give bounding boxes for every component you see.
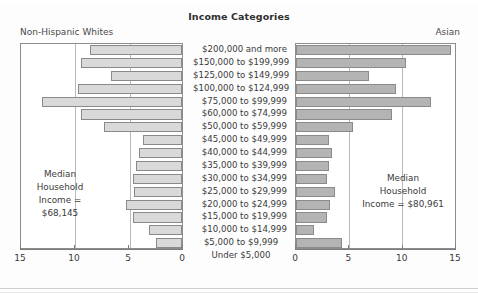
axis-tick-label: 10 — [396, 253, 407, 263]
bar[interactable] — [296, 122, 353, 132]
left-x-axis: 151050 — [20, 249, 183, 271]
bar-row — [296, 224, 455, 237]
right-bar-rows — [296, 44, 455, 248]
category-label: $15,000 to $19,999 — [193, 210, 289, 223]
axis-tick — [295, 245, 296, 250]
axis-tick — [74, 245, 75, 250]
footer-rule — [0, 288, 478, 289]
bar[interactable] — [296, 109, 392, 119]
bar[interactable] — [143, 135, 182, 145]
top-margin — [0, 0, 478, 4]
bar-row — [21, 70, 182, 83]
axis-tick-label: 15 — [449, 253, 460, 263]
axis-tick-label: 0 — [179, 253, 185, 263]
left-median-line-3: Income = — [24, 194, 96, 207]
bar[interactable] — [156, 238, 182, 248]
bar-row — [296, 147, 455, 160]
bar-row — [296, 108, 455, 121]
right-median-line-2: Household — [352, 185, 454, 198]
category-label: $25,000 to $29,999 — [193, 185, 289, 198]
bar[interactable] — [296, 84, 396, 94]
axis-tick — [348, 245, 349, 250]
chart-title: Income Categories — [0, 11, 478, 22]
axis-tick-label: 0 — [292, 253, 298, 263]
category-label: Under $5,000 — [193, 249, 289, 262]
left-series-label: Non-Hispanic Whites — [20, 27, 113, 37]
bar-row — [21, 108, 182, 121]
bar-row — [21, 57, 182, 70]
category-label: $30,000 to $34,999 — [193, 172, 289, 185]
axis-tick-label: 5 — [125, 253, 131, 263]
left-median-annotation: Median Household Income = $68,145 — [24, 168, 96, 220]
category-label: $45,000 to $49,999 — [193, 133, 289, 146]
bar[interactable] — [149, 225, 182, 235]
right-x-axis: 051015 — [295, 249, 456, 271]
bar[interactable] — [42, 97, 182, 107]
bar[interactable] — [134, 187, 182, 197]
left-axis-line — [20, 249, 183, 250]
axis-tick — [128, 245, 129, 250]
bar-row — [21, 134, 182, 147]
category-label: $100,000 to $124,999 — [193, 82, 289, 95]
bar-row — [21, 44, 182, 57]
right-median-value: Income = $80,961 — [352, 198, 454, 211]
bar-row — [21, 224, 182, 237]
category-label: $75,000 to $99,999 — [193, 95, 289, 108]
bar-row — [296, 70, 455, 83]
chart-figure: Income Categories Non-Hispanic Whites As… — [0, 0, 478, 293]
axis-tick — [402, 245, 403, 250]
axis-tick-label: 10 — [68, 253, 79, 263]
axis-tick-label: 15 — [14, 253, 25, 263]
category-label: $40,000 to $44,999 — [193, 146, 289, 159]
bar-row — [296, 160, 455, 173]
bar-row — [296, 44, 455, 57]
bar[interactable] — [81, 109, 182, 119]
bar[interactable] — [296, 238, 342, 248]
bar[interactable] — [296, 45, 451, 55]
bar[interactable] — [296, 71, 369, 81]
bar[interactable] — [296, 187, 335, 197]
category-label: $5,000 to $9,999 — [193, 236, 289, 249]
bar[interactable] — [139, 148, 182, 158]
left-median-line-2: Household — [24, 181, 96, 194]
bar[interactable] — [136, 161, 182, 171]
bar-row — [21, 83, 182, 96]
right-chart-panel — [295, 43, 456, 249]
bar-row — [296, 83, 455, 96]
bar[interactable] — [133, 212, 182, 222]
bar[interactable] — [126, 200, 182, 210]
left-median-value: $68,145 — [24, 207, 96, 220]
axis-tick — [182, 245, 183, 250]
right-axis-line — [295, 249, 456, 250]
axis-tick-label: 5 — [345, 253, 351, 263]
bar-row — [21, 121, 182, 134]
bar[interactable] — [296, 200, 330, 210]
bar[interactable] — [296, 174, 327, 184]
bar[interactable] — [81, 58, 182, 68]
right-median-line-1: Median — [352, 172, 454, 185]
bar[interactable] — [104, 122, 182, 132]
bar-row — [21, 96, 182, 109]
bar[interactable] — [296, 97, 431, 107]
category-label-column: $200,000 and more$150,000 to $199,999$12… — [193, 43, 289, 249]
category-label: $200,000 and more — [193, 43, 289, 56]
bar[interactable] — [296, 212, 327, 222]
bar[interactable] — [296, 58, 406, 68]
bar-row — [296, 134, 455, 147]
category-label: $150,000 to $199,999 — [193, 56, 289, 69]
bar-row — [296, 57, 455, 70]
category-label: $10,000 to $14,999 — [193, 223, 289, 236]
bar-row — [21, 147, 182, 160]
bar[interactable] — [133, 174, 182, 184]
bar[interactable] — [296, 135, 329, 145]
bar[interactable] — [90, 45, 182, 55]
right-series-label: Asian — [435, 27, 460, 37]
bar[interactable] — [78, 84, 182, 94]
category-label: $35,000 to $39,999 — [193, 159, 289, 172]
right-median-annotation: Median Household Income = $80,961 — [352, 172, 454, 211]
bar[interactable] — [296, 225, 314, 235]
bar[interactable] — [296, 161, 329, 171]
bar[interactable] — [111, 71, 182, 81]
axis-tick — [20, 245, 21, 250]
bar[interactable] — [296, 148, 332, 158]
